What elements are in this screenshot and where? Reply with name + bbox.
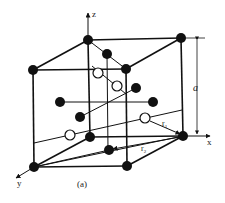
lattice-parameter-label: a — [193, 82, 198, 93]
x-axis-label: x — [207, 137, 212, 147]
r2-label: r2 — [141, 144, 147, 154]
z-axis-label: z — [92, 9, 96, 19]
figure-caption: (a) — [77, 179, 87, 189]
y-axis-label: y — [17, 178, 22, 188]
r1-label: r1 — [162, 119, 168, 129]
crystal-structure-diagram: z x y a r1 r2 (a) — [0, 0, 225, 203]
distance-arrows — [113, 121, 180, 149]
